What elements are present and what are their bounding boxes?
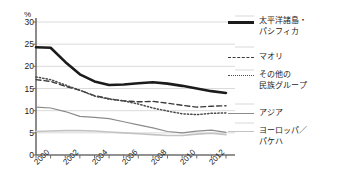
legend-swatch-icon-3 [228, 113, 254, 118]
legend-label-4: ヨーロッパ／ パケハ [259, 126, 307, 147]
legend-swatch-icon-1 [228, 57, 254, 62]
legend-item-0[interactable]: 太平洋諸島・ パシフィカ [228, 16, 307, 37]
legend-label-0: 太平洋諸島・ パシフィカ [259, 16, 307, 37]
legend-swatch-icon-2 [228, 75, 254, 80]
legend-swatch-icon-4 [228, 131, 254, 136]
line-chart: % 051015202530 2000200220042006200820102… [0, 0, 355, 189]
x-axis-tick-2010: 2010 [179, 148, 197, 166]
x-axis-tick-2004: 2004 [91, 148, 109, 166]
legend-item-4[interactable]: ヨーロッパ／ パケハ [228, 126, 307, 147]
x-axis-tick-2008: 2008 [150, 148, 168, 166]
x-axis-tick-2012: 2012 [208, 148, 226, 166]
legend-label-3: アジア [259, 108, 283, 119]
legend-item-2[interactable]: その他の 民族グループ [228, 70, 307, 91]
legend-item-1[interactable]: マオリ [228, 52, 283, 63]
x-axis-tick-2000: 2000 [33, 148, 51, 166]
legend-label-2: その他の 民族グループ [259, 70, 307, 91]
x-axis-tick-2006: 2006 [121, 148, 139, 166]
legend-swatch-icon-0 [228, 21, 254, 28]
legend-item-3[interactable]: アジア [228, 108, 283, 119]
x-axis-tick-2002: 2002 [62, 148, 80, 166]
legend-label-1: マオリ [259, 52, 283, 63]
